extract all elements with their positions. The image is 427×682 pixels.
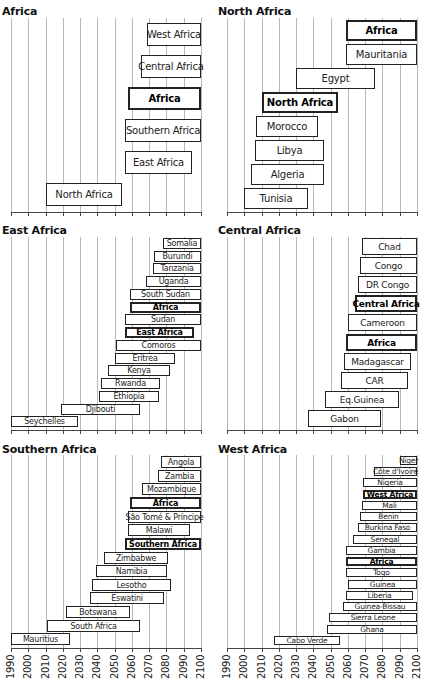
range-bar-chad: Chad [362,238,417,255]
x-tick-label-2040: 2040 [307,655,318,679]
gridline-2040 [313,237,314,430]
range-bar-tunisia: Tunisia [244,188,308,209]
range-bar-sudan: Sudan [125,314,201,325]
x-tick-2000 [244,430,245,434]
range-bar-lesotho: Lesotho [92,579,171,591]
gridline-1990 [227,455,228,648]
gridline-2100 [201,237,202,430]
range-bar-car: CAR [341,372,408,389]
x-tick-1990 [227,430,228,434]
range-bar-north-africa: North Africa [262,92,338,113]
range-bar-eswatini: Eswatini [90,592,164,604]
range-bar-eq-guinea: Eq.Guinea [325,391,399,408]
range-bar-gabon: Gabon [308,410,381,427]
gridline-2080 [166,18,167,212]
x-tick-2030 [296,212,297,216]
gridline-2020 [63,237,64,430]
range-bar-west-africa: West Africa [147,23,201,46]
x-tick-2100 [417,430,418,434]
gridline-2000 [28,18,29,212]
x-tick-2070 [149,648,150,652]
range-bar-malawi: Malawi [128,524,190,536]
range-bar-guinea: Guinea [348,580,417,589]
x-tick-2090 [184,212,185,216]
x-tick-2070 [365,648,366,652]
range-bar-senegal: Senegal [353,535,417,544]
x-tick-2050 [331,430,332,434]
x-tick-label-2020: 2020 [57,655,68,679]
gridline-2020 [279,237,280,430]
x-tick-2090 [184,430,185,434]
x-tick-label-2090: 2090 [178,655,189,679]
gridline-1990 [227,18,228,212]
x-tick-2030 [296,430,297,434]
x-tick-2030 [296,648,297,652]
x-tick-2000 [28,648,29,652]
x-tick-label-2090: 2090 [394,655,405,679]
range-bar-liberia: Liberia [346,591,413,600]
x-tick-2100 [417,648,418,652]
x-tick-2020 [279,648,280,652]
x-tick-2050 [331,648,332,652]
panel-title: East Africa [2,224,67,237]
range-bar-tanzania: Tanzania [153,263,201,274]
x-tick-label-2100: 2100 [411,655,422,679]
range-bar-cabo-verde: Cabo Verde [274,636,340,645]
x-tick-label-1990: 1990 [221,655,232,679]
x-tick-2090 [184,648,185,652]
range-bar-southern-africa: Southern Africa [125,538,201,550]
range-bar-botswana: Botswana [66,606,130,618]
panel-title: Africa [2,5,37,18]
x-tick-2080 [166,648,167,652]
gridline-2100 [201,18,202,212]
x-tick-2020 [63,430,64,434]
x-tick-label-2060: 2060 [126,655,137,679]
range-bar-central-africa: Central Africa [141,55,201,78]
x-tick-2060 [132,648,133,652]
range-bar-gambia: Gambia [346,546,417,555]
gridline-2010 [46,237,47,430]
range-bar-sierra-leone: Sierra Leone [329,613,417,622]
gridline-2070 [149,18,150,212]
x-tick-2040 [313,648,314,652]
x-tick-2100 [201,648,202,652]
x-tick-label-2000: 2000 [238,655,249,679]
range-bar-rwanda: Rwanda [101,378,160,389]
x-tick-2010 [46,648,47,652]
x-tick-2010 [262,430,263,434]
x-tick-2040 [97,648,98,652]
range-bar-congo: Congo [360,257,417,274]
range-bar-africa: Africa [128,87,201,110]
x-tick-2040 [97,430,98,434]
range-bar-zambia: Zambia [158,470,201,482]
gridline-2100 [201,455,202,648]
x-tick-2030 [80,648,81,652]
range-bar-central-africa: Central Africa [355,295,417,312]
x-tick-2060 [132,212,133,216]
x-tick-2080 [382,212,383,216]
x-tick-2010 [46,212,47,216]
x-tick-2090 [400,430,401,434]
x-tick-1990 [227,212,228,216]
x-tick-label-2010: 2010 [40,655,51,679]
gridline-2010 [262,455,263,648]
range-bar-uganda: Uganda [146,276,201,287]
range-bar-eritrea: Eritrea [115,353,175,364]
gridline-2020 [279,455,280,648]
x-tick-2010 [262,648,263,652]
x-axis-line [11,212,202,213]
gridline-2030 [296,455,297,648]
range-bar-egypt: Egypt [296,68,375,89]
range-bar-guinea-bissau: Guinea-Bissau [343,602,417,611]
x-tick-2100 [417,212,418,216]
x-tick-2020 [63,212,64,216]
x-tick-label-2050: 2050 [109,655,120,679]
x-tick-2040 [97,212,98,216]
x-tick-2020 [279,212,280,216]
range-bar-somalia: Somalia [163,238,201,249]
gridline-2060 [132,18,133,212]
panel-title: West Africa [218,443,287,456]
range-bar-namibia: Namibia [96,565,167,577]
x-axis-line [11,648,202,649]
x-tick-2040 [313,430,314,434]
